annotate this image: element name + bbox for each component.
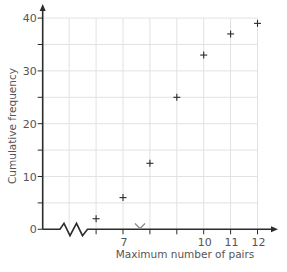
ticks: 0102030407101112 xyxy=(23,12,266,249)
y-axis-label: Cumulative frequency xyxy=(6,68,18,184)
y-tick-label: 10 xyxy=(23,171,37,184)
y-axis-arrow-icon xyxy=(40,4,46,11)
y-tick-label: 40 xyxy=(23,12,37,25)
y-tick-label: 30 xyxy=(23,65,37,78)
x-axis-with-break xyxy=(43,223,272,235)
plus-marker-icon xyxy=(200,52,207,59)
plus-marker-icon xyxy=(93,215,100,222)
gridlines xyxy=(43,18,258,229)
y-tick-label: 0 xyxy=(30,223,37,236)
plus-marker-icon xyxy=(173,94,180,101)
plus-marker-icon xyxy=(227,30,234,37)
y-tick-label: 20 xyxy=(23,118,37,131)
plus-marker-icon xyxy=(146,160,153,167)
cumulative-frequency-chart: 0102030407101112 Maximum number of pairs… xyxy=(0,0,287,272)
plus-marker-icon xyxy=(254,20,261,27)
plus-marker-icon xyxy=(120,194,127,201)
x-axis-label: Maximum number of pairs xyxy=(116,248,255,260)
x-axis-arrow-icon xyxy=(271,226,278,232)
v-mark-icon xyxy=(135,224,145,229)
axes xyxy=(40,4,278,236)
